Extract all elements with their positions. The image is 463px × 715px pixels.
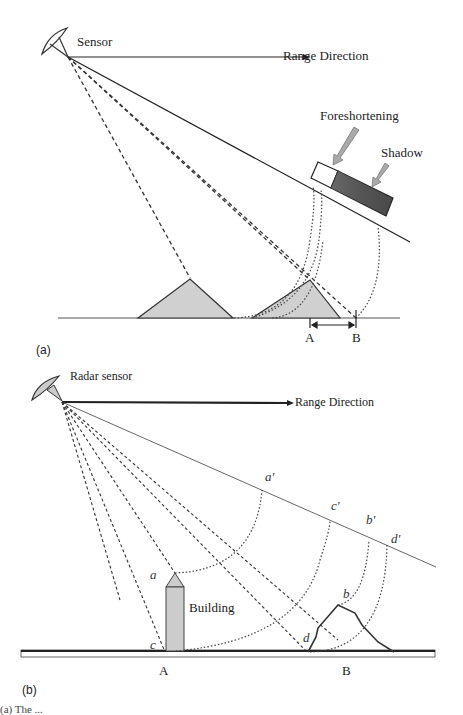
shadow-label: Shadow: [381, 145, 423, 161]
slant-range-line-b: [62, 402, 436, 567]
radar-rays: [68, 57, 356, 318]
range-direction-label-b: Range Direction: [295, 395, 374, 410]
point-c-label-b: c: [150, 637, 156, 653]
foreshortening-arrow: [333, 127, 359, 165]
point-d-prime-label: d': [391, 531, 400, 547]
mountain-profile: [308, 605, 394, 652]
ground-b-label: B: [342, 663, 351, 679]
point-a-label: A: [305, 330, 314, 346]
building-label: Building: [189, 600, 235, 616]
radar-sensor-label: Radar sensor: [70, 369, 132, 384]
panel-label-a: (a): [36, 343, 51, 357]
radar-sensor-dish-icon: [32, 376, 62, 401]
figure-caption: (a) The ...: [0, 703, 463, 715]
ground-a-label: A: [159, 663, 168, 679]
point-a-label-b: a: [150, 567, 157, 583]
foreshortening-label: Foreshortening: [320, 108, 399, 124]
range-direction-label-a: Range Direction: [283, 48, 369, 64]
sensor-dish-icon: [42, 28, 68, 57]
building-shape: [166, 573, 184, 651]
ground-line-b: [21, 650, 435, 657]
mountain-left: [138, 279, 233, 318]
figure-a: [42, 28, 410, 328]
range-direction-arrow-b: [62, 400, 294, 406]
point-b-label-b: b: [343, 586, 350, 602]
point-b-prime-label: b': [366, 512, 375, 528]
panel-label-b: (b): [22, 683, 37, 697]
shadow-arrow: [372, 163, 389, 187]
point-a-prime-label: a': [265, 469, 274, 485]
point-d-label-b: d: [303, 630, 310, 646]
point-b-label: B: [352, 330, 361, 346]
range-direction-arrow: [68, 54, 310, 60]
sensor-label: Sensor: [77, 34, 112, 50]
point-c-prime-label: c': [331, 498, 340, 514]
projection-arcs-b: [175, 490, 387, 652]
